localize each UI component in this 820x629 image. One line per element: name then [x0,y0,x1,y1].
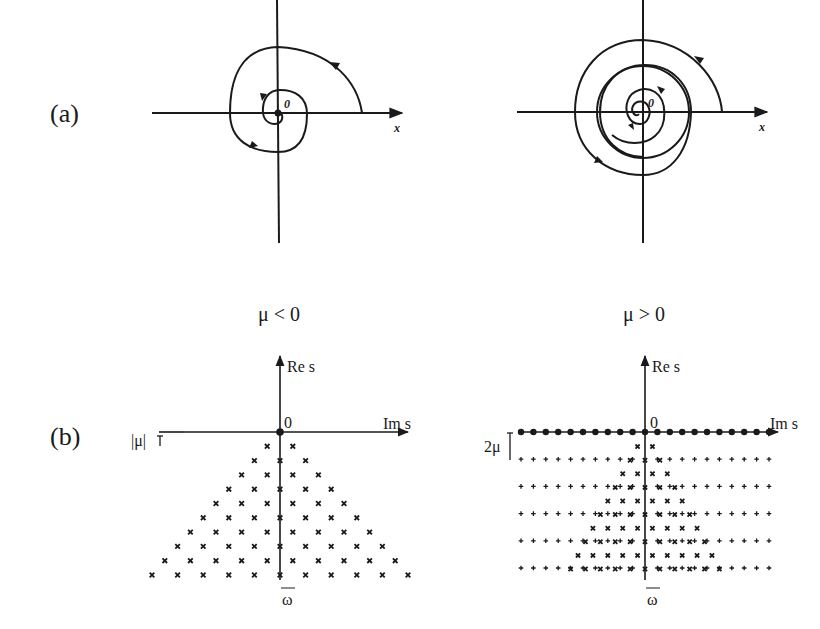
plus-marker [618,511,623,516]
panel-a-label: (a) [50,99,79,128]
x-marker [628,567,632,571]
x-marker [613,513,617,517]
x-marker [201,516,206,521]
x-marker [665,553,669,557]
x-marker [252,487,257,492]
x-marker [591,553,595,557]
plus-marker [544,566,549,571]
x-marker [695,526,699,530]
x-marker [163,558,168,563]
x-marker [591,526,595,530]
plus-marker [767,457,772,462]
x-marker [606,499,610,503]
frequency-label: ω [282,591,293,608]
x-marker [303,573,308,578]
flow-arrow-icon [628,123,634,130]
plus-marker [730,457,735,462]
x-marker [665,472,669,476]
re-axis-label: Re s [287,358,315,375]
plus-marker [519,511,524,516]
dot-marker [592,429,598,435]
panel-b-label: (b) [50,422,80,451]
x-marker [635,445,639,449]
plus-marker [754,484,759,489]
plus-marker [668,539,673,544]
plus-marker [556,457,561,462]
plus-marker [692,566,697,571]
dot-marker [729,429,735,435]
plus-marker [767,539,772,544]
x-marker [598,513,602,517]
x-marker [227,516,232,521]
plus-marker [593,484,598,489]
plus-marker [668,566,673,571]
x-marker [606,553,610,557]
plus-marker [680,539,685,544]
x-marker [635,499,639,503]
plus-marker [717,539,722,544]
plus-marker [692,484,697,489]
plus-marker [531,457,536,462]
x-marker [329,544,334,549]
x-marker [239,530,244,535]
x-marker [393,558,398,563]
plus-marker [581,511,586,516]
x-marker [201,573,206,578]
x-marker [150,573,155,578]
x-marker [355,544,360,549]
plus-marker [680,457,685,462]
x-marker [628,485,632,489]
phase-portrait-limit-cycle [517,0,767,243]
x-marker [303,544,308,549]
x-marker [188,558,193,563]
figure-canvas: (a) 0 x 0 x μ < 0 μ > 0 (b) [0,0,820,629]
x-marker [175,573,180,578]
x-marker [291,444,296,449]
x-marker [316,501,321,506]
x-marker [316,530,321,535]
x-marker [688,513,692,517]
x-marker [628,540,632,544]
plus-marker [618,457,623,462]
plus-marker [519,457,524,462]
x-marker [688,567,692,571]
spacing-label: 2μ [484,438,501,456]
plus-marker [556,566,561,571]
plus-marker [568,539,573,544]
x-marker [239,501,244,506]
plus-marker [680,511,685,516]
plus-marker [568,457,573,462]
dot-marker [753,429,759,435]
dot-marker [605,429,611,435]
dot-marker [617,429,623,435]
plus-marker [556,484,561,489]
plus-marker [705,457,710,462]
x-marker [702,567,706,571]
plus-marker [742,511,747,516]
plus-marker [618,539,623,544]
plus-marker [705,511,710,516]
x-axis-label: x [393,121,400,135]
x-marker [329,573,334,578]
plus-marker [581,484,586,489]
x-marker [673,513,677,517]
flow-arrow-icon [657,86,665,94]
frequency-label: ω [647,591,658,608]
dot-marker [741,429,747,435]
x-marker [613,485,617,489]
plus-marker [680,566,685,571]
x-marker [695,553,699,557]
dot-marker [716,429,722,435]
plus-marker [593,566,598,571]
plus-marker [742,539,747,544]
dot-marker [704,429,710,435]
x-marker [252,544,257,549]
re-axis-label: Re s [652,358,680,375]
plus-marker [730,511,735,516]
plus-marker [767,511,772,516]
x-marker [576,553,580,557]
x-marker [650,553,654,557]
x-marker [635,526,639,530]
x-marker [658,540,662,544]
x-marker [214,501,219,506]
